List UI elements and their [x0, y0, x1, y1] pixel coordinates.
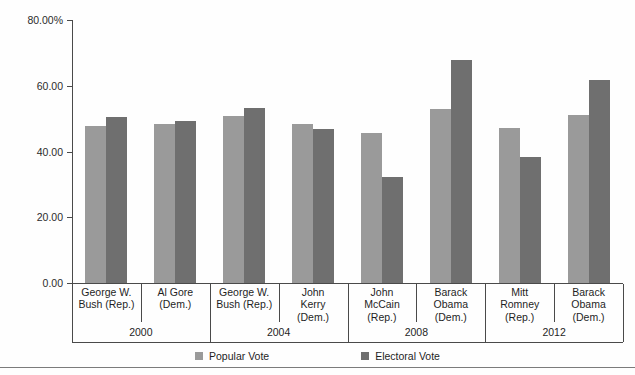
year-label-band: 2000200420082012 — [72, 322, 623, 342]
candidate-label: JohnKerry(Dem.) — [279, 284, 348, 322]
y-axis-tick-label: 80.00% — [0, 14, 63, 26]
candidate-label: Al Gore(Dem.) — [141, 284, 210, 322]
year-label: 2008 — [348, 322, 486, 342]
candidate-label-line: Obama — [434, 298, 468, 310]
chart-bottom-rule — [0, 367, 635, 368]
candidate-label-line: John — [364, 286, 400, 298]
candidate-label-line: Obama — [571, 298, 605, 310]
candidate-label: MittRomney(Rep.) — [485, 284, 554, 322]
year-label: 2004 — [210, 322, 348, 342]
candidate-label-line: Mitt — [500, 286, 539, 298]
bar-electoral-vote — [382, 177, 403, 283]
bar-electoral-vote — [175, 121, 196, 283]
bar-electoral-vote — [244, 108, 265, 283]
chart-legend: Popular VoteElectoral Vote — [0, 348, 635, 364]
bar-electoral-vote — [520, 157, 541, 283]
candidate-label-line: Bush (Rep.) — [216, 298, 272, 310]
legend-label: Electoral Vote — [375, 350, 440, 362]
y-axis-tick-label: 20.00 — [0, 211, 63, 223]
election-vote-bar-chart: 80.00%60.0040.0020.000.00 George W.Bush … — [0, 0, 635, 375]
legend-swatch-icon — [361, 352, 369, 360]
bar-popular-vote — [154, 124, 175, 283]
candidate-label-line: John — [297, 286, 329, 298]
candidate-label-line: Bush (Rep.) — [78, 298, 134, 310]
candidate-divider — [554, 284, 555, 322]
y-axis-tick-label: 60.00 — [0, 80, 63, 92]
candidate-label: BarackObama(Dem.) — [554, 284, 623, 322]
bar-popular-vote — [223, 116, 244, 283]
legend-item: Popular Vote — [195, 350, 269, 362]
candidate-label-line: Barack — [571, 286, 605, 298]
candidate-label-line: Romney — [500, 298, 539, 310]
candidate-band-edge — [623, 284, 624, 342]
bar-electoral-vote — [589, 80, 610, 283]
legend-label: Popular Vote — [209, 350, 269, 362]
bar-popular-vote — [568, 115, 589, 283]
bar-popular-vote — [85, 126, 106, 283]
legend-item: Electoral Vote — [361, 350, 440, 362]
bar-popular-vote — [292, 124, 313, 283]
candidate-label: George W.Bush (Rep.) — [72, 284, 141, 322]
legend-swatch-icon — [195, 352, 203, 360]
bar-electoral-vote — [106, 117, 127, 283]
bar-electoral-vote — [451, 60, 472, 283]
year-label: 2012 — [485, 322, 623, 342]
bar-electoral-vote — [313, 129, 334, 283]
candidate-label-line: McCain — [364, 298, 400, 310]
plot-area — [72, 20, 623, 283]
y-axis-tick-label: 40.00 — [0, 146, 63, 158]
candidate-label-line: Kerry — [297, 298, 329, 310]
bar-popular-vote — [430, 109, 451, 283]
y-axis-tick-label: 0.00 — [0, 277, 63, 289]
candidate-label-line: Barack — [434, 286, 468, 298]
candidate-divider — [141, 284, 142, 322]
year-band-bottom-rule — [72, 342, 623, 343]
candidate-label: George W.Bush (Rep.) — [210, 284, 279, 322]
bar-popular-vote — [499, 128, 520, 283]
year-label: 2000 — [72, 322, 210, 342]
candidate-label-line: George W. — [78, 286, 134, 298]
candidate-label-line: George W. — [216, 286, 272, 298]
candidate-divider — [279, 284, 280, 322]
candidate-label-line: (Dem.) — [158, 298, 194, 310]
candidate-label: BarackObama(Dem.) — [416, 284, 485, 322]
candidate-label: JohnMcCain(Rep.) — [348, 284, 417, 322]
bar-popular-vote — [361, 133, 382, 283]
candidate-label-line: Al Gore — [158, 286, 194, 298]
candidate-divider — [416, 284, 417, 322]
